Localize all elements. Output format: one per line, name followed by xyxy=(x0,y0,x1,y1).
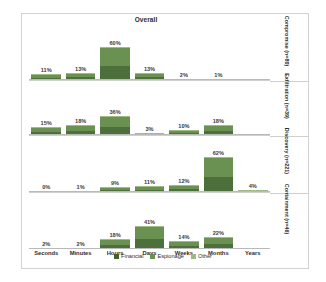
bar-slot[interactable]: 14% xyxy=(167,193,201,249)
bar-value-label: 18% xyxy=(75,118,86,124)
bar-value-label: 4% xyxy=(249,183,257,189)
bar-slot[interactable]: 10% xyxy=(167,81,201,135)
bar-value-label: 9% xyxy=(111,180,119,186)
bar-value-label: 14% xyxy=(178,234,189,240)
panel-discovery: 0% 1% 9% 11% xyxy=(29,136,270,193)
bar[interactable] xyxy=(135,226,165,249)
panel-row-labels: Compromise (n=80) Exfiltration (n=39) Di… xyxy=(270,14,308,268)
bar-slot[interactable]: 13% xyxy=(63,25,97,80)
bar-value-label: 18% xyxy=(109,232,120,238)
bar-value-label: 2% xyxy=(42,241,50,247)
bar-slot[interactable]: 36% xyxy=(98,81,132,135)
bar-value-label: 60% xyxy=(109,40,120,46)
panel-baseline xyxy=(29,79,270,80)
legend-swatch-icon xyxy=(114,254,119,259)
panel-baseline xyxy=(29,191,270,192)
bar[interactable] xyxy=(100,47,130,80)
bar-value-label: 0% xyxy=(42,184,50,190)
legend-label: Financial xyxy=(121,253,143,259)
bar-slot[interactable]: 41% xyxy=(132,193,166,249)
bar-slot[interactable] xyxy=(236,81,270,135)
bar-value-label: 18% xyxy=(213,118,224,124)
panel-containment: 2% 2% 18% 41% xyxy=(29,193,270,249)
chart-legend: Financial Espionage Other xyxy=(0,253,326,259)
bar-slot[interactable]: 1% xyxy=(201,25,235,80)
bar-value-label: 41% xyxy=(144,219,155,225)
bar-slot[interactable]: 18% xyxy=(201,81,235,135)
bar-value-label: 3% xyxy=(145,126,153,132)
panel-bars: 11% 13% 60% 13% xyxy=(29,25,270,80)
panel-bars: 15% 18% 36% 3% xyxy=(29,81,270,135)
bar-slot[interactable]: 62% xyxy=(201,136,235,192)
legend-item-financial[interactable]: Financial xyxy=(114,253,143,259)
bar-slot[interactable]: 2% xyxy=(29,193,63,249)
bar-slot[interactable] xyxy=(236,193,270,249)
row-label-exfiltration: Exfiltration (n=39) xyxy=(284,68,290,124)
bar-value-label: 1% xyxy=(77,184,85,190)
bar-slot[interactable]: 13% xyxy=(132,25,166,80)
panel-baseline xyxy=(29,134,270,135)
bar-slot[interactable]: 12% xyxy=(167,136,201,192)
panel-baseline xyxy=(29,248,270,249)
bar-slot[interactable]: 18% xyxy=(98,193,132,249)
chart-plot-frame: Overall 11% 13% 60% xyxy=(21,13,309,269)
bar-value-label: 2% xyxy=(180,72,188,78)
row-label-compromise: Compromise (n=80) xyxy=(284,13,290,69)
bar-value-label: 22% xyxy=(213,230,224,236)
bar-slot[interactable]: 60% xyxy=(98,25,132,80)
bar-slot[interactable]: 4% xyxy=(236,136,270,192)
bar-value-label: 13% xyxy=(144,66,155,72)
bar-slot[interactable]: 1% xyxy=(63,136,97,192)
bar-value-label: 11% xyxy=(41,67,52,73)
bar-slot[interactable]: 2% xyxy=(63,193,97,249)
bar-slot[interactable]: 3% xyxy=(132,81,166,135)
bar-slot[interactable]: 11% xyxy=(29,25,63,80)
bar-slot[interactable]: 0% xyxy=(29,136,63,192)
bar-slot[interactable]: 11% xyxy=(132,136,166,192)
bar-value-label: 15% xyxy=(41,120,52,126)
row-label-containment: Containment (n=46) xyxy=(284,181,290,237)
chart-figure: ————— —— —————— ——————— ———— —————— Over… xyxy=(0,0,326,282)
panel-bars: 0% 1% 9% 11% xyxy=(29,136,270,192)
bar-slot[interactable] xyxy=(236,25,270,80)
chart-title: Overall xyxy=(22,16,270,23)
legend-item-espionage[interactable]: Espionage xyxy=(150,253,183,259)
panel-compromise: 11% 13% 60% 13% xyxy=(29,25,270,81)
legend-swatch-icon xyxy=(150,254,155,259)
bar-slot[interactable]: 15% xyxy=(29,81,63,135)
legend-label: Other xyxy=(198,253,212,259)
bar-slot[interactable]: 22% xyxy=(201,193,235,249)
bar[interactable] xyxy=(204,157,234,192)
bar-value-label: 62% xyxy=(213,150,224,156)
panel-exfiltration: 15% 18% 36% 3% xyxy=(29,81,270,136)
bar-value-label: 11% xyxy=(144,179,155,185)
legend-label: Espionage xyxy=(157,253,183,259)
figure-caption-text: ————— —— —————— ——————— ———— —————— xyxy=(4,0,322,4)
figure-caption: ————— —— —————— ——————— ———— —————— xyxy=(4,0,322,10)
legend-swatch-icon xyxy=(191,254,196,259)
panel-bars: 2% 2% 18% 41% xyxy=(29,193,270,249)
row-label-discovery: Discovery (n=221) xyxy=(284,123,290,179)
bar-value-label: 36% xyxy=(109,109,120,115)
bar-value-label: 12% xyxy=(178,178,189,184)
bar-value-label: 13% xyxy=(75,66,86,72)
legend-item-other[interactable]: Other xyxy=(191,253,212,259)
bar-slot[interactable]: 2% xyxy=(167,25,201,80)
bar-slot[interactable]: 18% xyxy=(63,81,97,135)
panel-stack: 11% 13% 60% 13% xyxy=(29,25,270,249)
bar-value-label: 10% xyxy=(178,123,189,129)
bar-slot[interactable]: 9% xyxy=(98,136,132,192)
bar[interactable] xyxy=(100,116,130,135)
bar-value-label: 1% xyxy=(214,72,222,78)
bar-value-label: 2% xyxy=(77,241,85,247)
